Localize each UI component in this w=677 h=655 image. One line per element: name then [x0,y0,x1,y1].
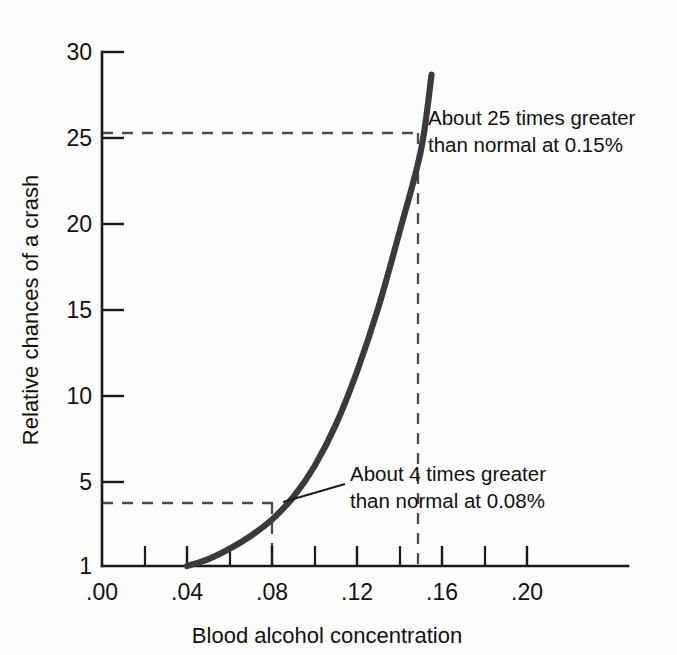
x-tick-label-012: .12 [341,579,373,605]
x-tick-label-020: .20 [511,579,543,605]
x-tick-label-004: .04 [171,579,203,605]
x-axis-title: Blood alcohol concentration [192,623,462,648]
y-tick-label-15: 15 [66,297,92,323]
x-tick-label-008: .08 [256,579,288,605]
y-tick-label-10: 10 [66,383,92,409]
y-tick-label-5: 5 [79,469,92,495]
annotation-4x-line2: than normal at 0.08% [350,489,545,512]
chart-figure: 30 25 20 15 10 5 1 .00 .04 .08 .12 [0,0,677,655]
y-axis-title: Relative chances of a crash [18,175,43,445]
crash-risk-line-chart: 30 25 20 15 10 5 1 .00 .04 .08 .12 [0,0,677,655]
annotation-4x-line1: About 4 times greater [350,462,546,485]
y-tick-label-1: 1 [79,553,92,579]
y-tick-label-30: 30 [66,39,92,65]
y-tick-label-20: 20 [66,211,92,237]
annotation-25x-line1: About 25 times greater [428,106,636,129]
y-tick-label-25: 25 [66,125,92,151]
x-tick-label-016: .16 [426,579,458,605]
x-tick-label-000: .00 [86,579,118,605]
annotation-25x-line2: than normal at 0.15% [428,133,623,156]
